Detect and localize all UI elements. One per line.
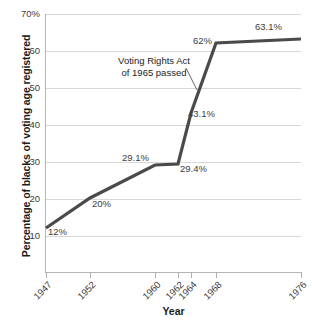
data-label-1947: 12% [48, 226, 67, 237]
series-overlay [0, 0, 312, 325]
data-label-1968: 62% [193, 35, 212, 46]
annotation-voting-rights-act: Voting Rights Act of 1965 passed [105, 55, 203, 79]
data-label-1976: 63.1% [255, 21, 282, 32]
data-label-1952: 20% [92, 198, 111, 209]
data-label-1964: 43.1% [188, 108, 215, 119]
x-axis-title: Year [46, 305, 301, 317]
data-label-1960: 29.1% [122, 152, 149, 163]
data-label-1962: 29.4% [180, 163, 207, 174]
line-chart: Percentage of blacks of voting age regis… [0, 0, 312, 325]
annotation-line-2: of 1965 passed [105, 67, 203, 79]
annotation-line-1: Voting Rights Act [105, 55, 203, 67]
